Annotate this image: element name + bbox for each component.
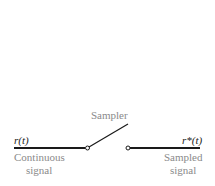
input-signal-symbol: r(t) xyxy=(14,134,29,146)
sampler-label: Sampler xyxy=(91,109,128,121)
switch-arm xyxy=(89,124,128,147)
input-caption-line1: Continuous xyxy=(14,151,65,163)
output-caption-line1: Sampled xyxy=(164,151,203,163)
output-caption-line2: signal xyxy=(170,164,196,176)
output-signal-symbol: r*(t) xyxy=(182,134,202,146)
input-caption-line2: signal xyxy=(26,164,52,176)
switch-right-terminal xyxy=(126,146,130,150)
